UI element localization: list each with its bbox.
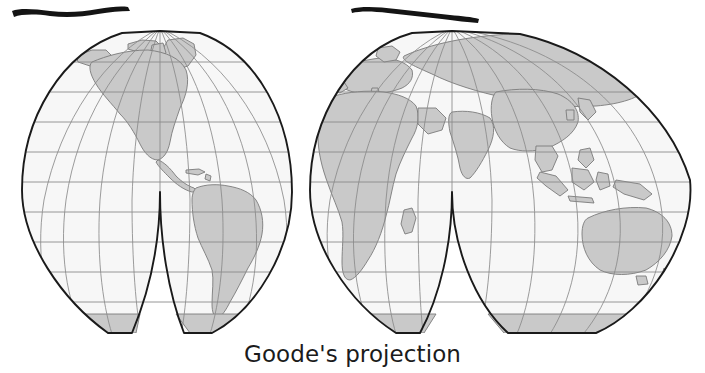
land-kamchatka bbox=[626, 58, 648, 80]
world-map-svg bbox=[0, 0, 705, 373]
land-korea bbox=[566, 110, 574, 120]
land-antarctica-lobe1 bbox=[60, 314, 140, 333]
land-antarctica-lobe2 bbox=[176, 314, 272, 333]
figure-caption: Goode's projection bbox=[0, 341, 705, 367]
goode-projection-figure: Goode's projection bbox=[0, 0, 705, 373]
marker-stroke-left bbox=[12, 7, 130, 17]
marker-stroke-right bbox=[351, 7, 479, 23]
land-new-zealand-south bbox=[661, 268, 674, 286]
hand-drawn-annotations bbox=[12, 7, 479, 23]
land-tasmania bbox=[636, 276, 648, 285]
